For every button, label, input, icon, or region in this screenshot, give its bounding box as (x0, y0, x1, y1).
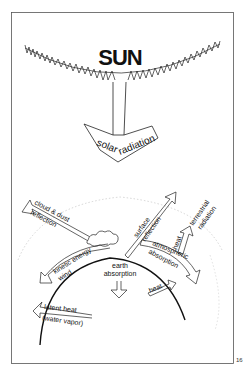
energy-balance-diagram: SUN solar radiation cloud & dust reflect… (0, 0, 251, 373)
latent-heat-label: latent heat (44, 303, 77, 313)
radiation-label: radiation (117, 132, 157, 157)
kinetic-energy-label: kinetic energy (52, 246, 93, 276)
page-number: 16 (236, 357, 243, 363)
sun-title: SUN (98, 45, 142, 70)
heat-label: heat (148, 282, 163, 294)
earth-absorption-arrow (111, 281, 127, 298)
wind-arrow (40, 244, 110, 283)
earth-absorption-label: absorption (104, 270, 137, 278)
cloud-icon (87, 231, 118, 246)
earth-label: earth (112, 262, 128, 269)
water-vapor-label: (water vapor) (42, 314, 84, 328)
